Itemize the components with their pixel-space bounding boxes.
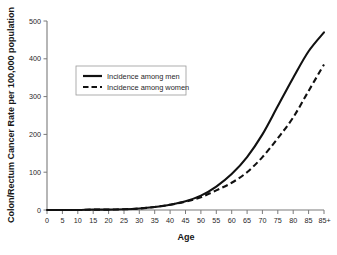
y-tick-label: 100 xyxy=(29,168,41,177)
x-tick-label: 60 xyxy=(228,216,236,225)
x-tick-label: 5 xyxy=(60,216,64,225)
page-caption-ghost xyxy=(0,247,337,255)
x-tick-label: 30 xyxy=(135,216,143,225)
x-tick-label: 20 xyxy=(105,216,113,225)
x-tick-label: 40 xyxy=(166,216,174,225)
x-tick-label: 75 xyxy=(274,216,282,225)
x-tick-label: 50 xyxy=(197,216,205,225)
x-tick-label: 15 xyxy=(89,216,97,225)
x-tick-label: 10 xyxy=(74,216,82,225)
x-axis-tick-labels: 0 5 10 15 20 25 30 35 40 45 50 55 60 65 … xyxy=(45,216,331,225)
series-line-men xyxy=(47,32,324,210)
x-tick-label: 45 xyxy=(182,216,190,225)
x-tick-label: 85 xyxy=(305,216,313,225)
y-tick-label: 400 xyxy=(29,54,41,63)
x-tick-label: 80 xyxy=(289,216,297,225)
x-tick-label: 55 xyxy=(212,216,220,225)
y-tick-label: 200 xyxy=(29,130,41,139)
y-axis-title: Colon/Rectum Cancer Rate per 100,000 pop… xyxy=(6,7,16,223)
x-tick-label: 25 xyxy=(120,216,128,225)
x-tick-label: 0 xyxy=(45,216,49,225)
y-tick-label: 0 xyxy=(37,206,41,215)
legend-label-men: Incidence among men xyxy=(107,72,180,81)
y-tick-label: 300 xyxy=(29,92,41,101)
legend-label-women: Incidence among women xyxy=(107,83,189,92)
x-tick-label: 35 xyxy=(151,216,159,225)
x-tick-label: 65 xyxy=(243,216,251,225)
x-axis-title: Age xyxy=(177,232,194,242)
y-axis-tick-labels: 0 100 200 300 400 500 xyxy=(29,17,41,215)
x-tick-label: 70 xyxy=(258,216,266,225)
incidence-line-chart: Colon/Rectum Cancer Rate per 100,000 pop… xyxy=(0,0,337,255)
figure-container: Colon/Rectum Cancer Rate per 100,000 pop… xyxy=(0,0,337,255)
x-tick-label: 85+ xyxy=(318,216,330,225)
legend: Incidence among men Incidence among wome… xyxy=(76,66,189,95)
y-tick-label: 500 xyxy=(29,17,41,26)
